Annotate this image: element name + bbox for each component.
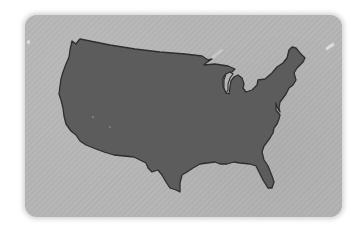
texture-speck [109, 126, 111, 128]
usa-map-icon [0, 0, 362, 235]
usa-silhouette [59, 39, 305, 192]
illustration-stage [0, 0, 362, 235]
texture-speck [92, 116, 94, 118]
